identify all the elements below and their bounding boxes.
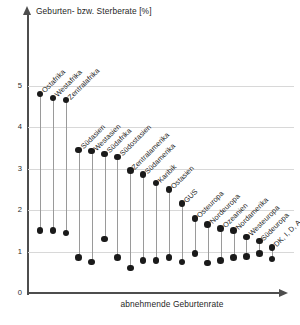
- y-tick-label-4: 4: [6, 122, 22, 131]
- birth-rate-dot[interactable]: [101, 151, 108, 158]
- connector-line: [208, 225, 209, 264]
- connector-line: [40, 94, 41, 231]
- death-rate-dot[interactable]: [114, 254, 121, 261]
- birth-rate-dot[interactable]: [75, 147, 82, 154]
- connector-line: [53, 98, 54, 231]
- death-rate-dot[interactable]: [230, 254, 237, 261]
- y-tick-label-3: 3: [6, 164, 22, 173]
- connector-line: [195, 218, 196, 253]
- birth-rate-dot[interactable]: [243, 234, 250, 241]
- death-rate-dot[interactable]: [204, 260, 211, 267]
- y-tick-label-5: 5: [6, 81, 22, 90]
- death-rate-dot[interactable]: [101, 236, 108, 243]
- connector-line: [130, 171, 131, 269]
- death-rate-dot[interactable]: [37, 227, 44, 234]
- connector-line: [143, 175, 144, 261]
- death-rate-dot[interactable]: [50, 227, 57, 234]
- birth-rate-dot[interactable]: [114, 154, 121, 161]
- gridline-1: [28, 252, 294, 253]
- x-axis-title: abnehmende Geburtenrate: [0, 299, 300, 309]
- chart-container: Geburten- bzw. Sterberate [%] OstafrikaW…: [0, 0, 300, 325]
- death-rate-dot[interactable]: [75, 254, 82, 261]
- y-tick-label-0: 0: [6, 288, 22, 297]
- connector-line: [92, 151, 93, 262]
- connector-line: [156, 183, 157, 261]
- death-rate-dot[interactable]: [166, 254, 173, 261]
- death-rate-dot[interactable]: [192, 250, 199, 257]
- connector-line: [182, 204, 183, 262]
- death-rate-dot[interactable]: [153, 257, 160, 264]
- y-axis-title: Geburten- bzw. Sterberate [%]: [36, 6, 152, 16]
- death-rate-dot[interactable]: [217, 257, 224, 264]
- connector-line: [221, 229, 222, 261]
- connector-line: [117, 157, 118, 258]
- death-rate-dot[interactable]: [269, 256, 276, 263]
- connector-line: [79, 150, 80, 258]
- gridline-3: [28, 169, 294, 170]
- death-rate-dot[interactable]: [179, 259, 186, 266]
- death-rate-dot[interactable]: [140, 257, 147, 264]
- death-rate-dot[interactable]: [243, 253, 250, 260]
- connector-line: [169, 189, 170, 257]
- y-tick-label-2: 2: [6, 205, 22, 214]
- connector-line: [105, 154, 106, 239]
- birth-rate-dot[interactable]: [230, 227, 237, 234]
- death-rate-dot[interactable]: [127, 265, 134, 272]
- death-rate-dot[interactable]: [88, 259, 95, 266]
- y-tick-label-1: 1: [6, 247, 22, 256]
- death-rate-dot[interactable]: [256, 250, 263, 257]
- y-axis-arrowhead-icon: [23, 6, 31, 15]
- plot-area: OstafrikaWestafrikaZentralafrikaSüdasien…: [28, 20, 294, 293]
- connector-line: [66, 100, 67, 233]
- death-rate-dot[interactable]: [63, 230, 70, 237]
- gridline-4: [28, 127, 294, 128]
